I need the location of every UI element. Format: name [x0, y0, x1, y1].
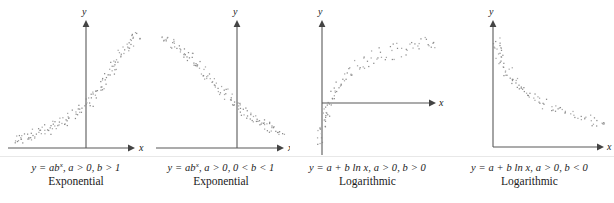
- data-point: [562, 109, 563, 110]
- x-axis-label: x: [438, 97, 444, 108]
- data-point: [500, 62, 501, 63]
- data-point: [379, 47, 380, 48]
- plot-svg-2: x y: [152, 0, 290, 160]
- data-point: [317, 144, 318, 145]
- data-point: [354, 60, 355, 61]
- data-point: [529, 96, 530, 97]
- data-point: [271, 127, 272, 128]
- data-point: [107, 74, 108, 75]
- x-axis-arrowhead: [597, 144, 604, 151]
- data-point: [539, 98, 540, 99]
- data-point: [338, 87, 339, 88]
- data-point: [604, 123, 605, 124]
- data-point: [136, 33, 137, 34]
- data-point: [32, 129, 33, 130]
- data-point: [192, 53, 193, 54]
- data-point: [216, 83, 217, 84]
- data-point: [61, 123, 62, 124]
- data-point: [173, 39, 174, 40]
- data-point: [187, 60, 188, 61]
- data-point: [28, 137, 29, 138]
- data-point: [224, 90, 225, 91]
- data-point: [503, 67, 504, 68]
- data-point: [232, 94, 233, 95]
- data-point: [573, 115, 574, 116]
- data-point: [121, 54, 122, 55]
- data-point: [27, 134, 28, 135]
- data-point: [324, 119, 325, 120]
- x-axis-arrowhead: [128, 145, 135, 152]
- data-point: [405, 54, 406, 55]
- data-point: [264, 128, 265, 129]
- data-point: [172, 42, 173, 43]
- data-point: [516, 80, 517, 81]
- data-point: [426, 39, 427, 40]
- data-point: [515, 82, 516, 83]
- data-point: [52, 128, 53, 129]
- data-point: [269, 123, 270, 124]
- data-point: [124, 49, 125, 50]
- data-point: [407, 50, 408, 51]
- data-point: [188, 52, 189, 53]
- data-point: [57, 125, 58, 126]
- model-name-label: Logarithmic: [445, 175, 614, 188]
- data-point: [28, 138, 29, 139]
- data-point: [257, 119, 258, 120]
- data-point: [131, 40, 132, 41]
- data-point: [102, 78, 103, 79]
- data-point: [385, 59, 386, 60]
- data-point: [428, 44, 429, 45]
- x-axis-label: x: [138, 142, 144, 153]
- data-point: [224, 94, 225, 95]
- data-point: [176, 48, 177, 49]
- data-point: [102, 79, 103, 80]
- data-point: [325, 121, 326, 122]
- data-point: [227, 88, 228, 89]
- data-point: [114, 73, 115, 74]
- data-point: [58, 124, 59, 125]
- panel-logarithmic-decreasing: x y y = a + b ln x, a > 0, b < 0 Logarit…: [445, 0, 614, 203]
- data-point: [197, 64, 198, 65]
- data-point: [328, 102, 329, 103]
- data-point: [100, 81, 101, 82]
- data-point: [123, 53, 124, 54]
- data-point: [238, 108, 239, 109]
- data-point: [433, 42, 434, 43]
- data-point: [203, 69, 204, 70]
- data-point: [345, 79, 346, 80]
- axes-group-3: [319, 20, 436, 155]
- data-point: [100, 87, 101, 88]
- data-point: [196, 66, 197, 67]
- caption-exponential-decay: y = abx, a > 0, 0 < b < 1 Exponential: [152, 162, 290, 188]
- data-point: [495, 41, 496, 42]
- data-point: [238, 105, 239, 106]
- data-point: [546, 99, 547, 100]
- y-axis-label: y: [488, 6, 494, 17]
- data-point: [96, 97, 97, 98]
- data-point: [537, 96, 538, 97]
- data-point: [91, 94, 92, 95]
- data-point: [411, 42, 412, 43]
- data-point: [325, 117, 326, 118]
- data-point: [499, 43, 500, 44]
- data-point: [50, 134, 51, 135]
- x-axis-arrowhead: [429, 100, 436, 107]
- data-point: [581, 116, 582, 117]
- data-point: [199, 61, 200, 62]
- data-point: [38, 128, 39, 129]
- data-point: [233, 105, 234, 106]
- data-point: [210, 78, 211, 79]
- data-point: [230, 99, 231, 100]
- data-point: [335, 90, 336, 91]
- data-point: [163, 40, 164, 41]
- data-point: [132, 38, 133, 39]
- data-point: [15, 140, 16, 141]
- data-point: [594, 117, 595, 118]
- data-point: [409, 43, 410, 44]
- data-point: [266, 123, 267, 124]
- data-point: [221, 86, 222, 87]
- data-point: [184, 53, 185, 54]
- data-point: [67, 125, 68, 126]
- data-point: [329, 103, 330, 104]
- data-point: [505, 71, 506, 72]
